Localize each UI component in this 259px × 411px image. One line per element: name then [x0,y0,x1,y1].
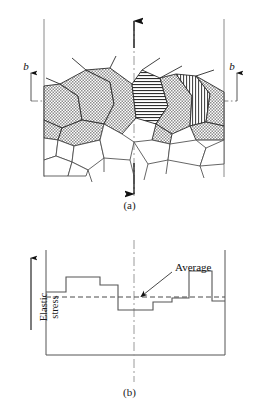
average-leader-line [143,272,172,295]
gauge-marker-left: b [23,60,31,101]
grain-shaded [190,122,224,140]
caption-panel-a: (a) [0,199,259,211]
grain-open [168,140,206,166]
panel-b: Average [31,240,225,382]
y-axis-label: Elastic stress [38,272,60,342]
gauge-marker-right: b [229,60,237,101]
average-annotation-label: Average [175,261,212,273]
panel-a: b b [23,19,237,196]
gauge-label-right: b [229,60,235,72]
gauge-label-left: b [23,60,29,72]
caption-panel-b: (b) [0,386,259,398]
stress-step-profile [46,271,225,310]
grain-open [134,140,170,164]
